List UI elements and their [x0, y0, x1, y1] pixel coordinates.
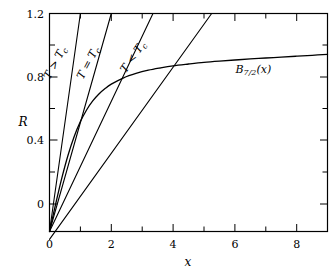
annot-brillouin-sub: 7/2: [244, 68, 257, 77]
x-axis-ticks: [50, 224, 328, 232]
x-tick-label-0: 0: [46, 238, 53, 251]
y-axis-title: R: [17, 115, 27, 129]
y-axis-ticks-right: [320, 45, 328, 204]
y-tick-label-0: 0: [37, 198, 44, 211]
x-axis-title: x: [185, 255, 192, 269]
svg-text:T > Tc: T > Tc: [41, 44, 71, 82]
x-tick-label-8: 8: [293, 238, 300, 251]
x-tick-label-6: 6: [231, 238, 238, 251]
y-tick-label-1.2: 1.2: [27, 8, 45, 21]
x-tick-label-2: 2: [108, 238, 115, 251]
annot-brillouin-main: B: [234, 63, 243, 76]
data-lines-group: [50, 14, 212, 240]
svg-text:B7/2(x): B7/2(x): [234, 63, 271, 78]
chart-figure-root: 1.2 0.8 0.4 0 0 2 4 6 8 x R T > Tc: [0, 0, 335, 275]
annotation-T-greater-than-Tc: T > Tc: [41, 44, 71, 82]
svg-text:T = Tc: T = Tc: [74, 44, 104, 82]
annotation-T-equal-Tc: T = Tc: [74, 44, 104, 82]
line-T-less-than-Tc-b: [50, 14, 212, 240]
annot-brillouin-arg: (x): [256, 63, 271, 76]
x-axis-ticks-top: [80, 14, 296, 22]
y-tick-label-0.4: 0.4: [27, 134, 45, 147]
annotation-brillouin-label: B7/2(x): [234, 63, 271, 78]
x-tick-label-4: 4: [170, 238, 177, 251]
brillouin-function-chart: 1.2 0.8 0.4 0 0 2 4 6 8 x R T > Tc: [0, 0, 335, 275]
